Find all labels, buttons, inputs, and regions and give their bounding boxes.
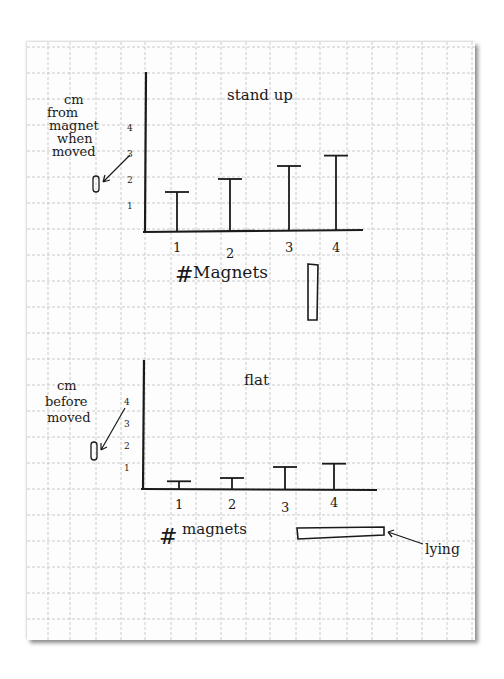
x-axis-hash: # xyxy=(175,262,193,287)
y-tick-label: 2 xyxy=(127,175,133,185)
arrow-icon xyxy=(103,155,130,182)
bar xyxy=(220,478,244,489)
bar xyxy=(273,467,297,489)
magnet-standing-icon xyxy=(308,264,318,320)
y-axis-label-line: moved xyxy=(47,410,91,425)
hand-drawn-charts: 1234 1234 stand up # Magnets cmfrommagne… xyxy=(27,42,475,640)
arrow-icon xyxy=(388,530,423,544)
x-tick-label: 3 xyxy=(285,240,293,255)
x-axis-label: magnets xyxy=(182,520,247,538)
y-axis xyxy=(143,360,144,490)
annotation-lying: lying xyxy=(425,541,460,557)
y-tick-label: 3 xyxy=(124,419,130,429)
y-tick-label: 2 xyxy=(124,441,130,451)
x-tick-label: 2 xyxy=(228,497,236,512)
x-tick-label: 1 xyxy=(173,240,181,255)
y-axis-label-line: before xyxy=(45,394,88,409)
x-axis xyxy=(143,230,363,232)
y-axis-label-line: moved xyxy=(52,144,96,159)
y-tick-label: 1 xyxy=(127,201,133,211)
chart-title: flat xyxy=(244,371,269,389)
bar xyxy=(218,179,242,231)
magnet-lying-icon xyxy=(297,527,384,539)
bar xyxy=(165,192,189,231)
x-tick-labels: 1234 xyxy=(175,495,338,515)
x-axis xyxy=(141,489,377,490)
chart-flat: 1234 1234 flat # magnets cmbeforemoved l… xyxy=(45,360,460,557)
bar xyxy=(322,464,346,489)
y-axis-label-line: cm xyxy=(57,378,77,393)
bar-series xyxy=(165,156,348,231)
bar xyxy=(277,166,301,231)
x-tick-label: 4 xyxy=(330,495,338,510)
y-tick-label: 1 xyxy=(124,463,130,473)
chart-stand-up: 1234 1234 stand up # Magnets cmfrommagne… xyxy=(47,72,363,320)
x-axis-hash: # xyxy=(159,524,177,549)
x-tick-label: 4 xyxy=(332,240,340,255)
y-tick-label: 4 xyxy=(124,397,130,407)
x-tick-label: 2 xyxy=(226,246,234,261)
y-tick-labels: 1234 xyxy=(127,123,133,211)
bar-series xyxy=(167,464,346,489)
x-axis-label: Magnets xyxy=(193,262,268,282)
x-tick-labels: 1234 xyxy=(173,240,340,261)
x-tick-label: 3 xyxy=(281,500,289,515)
y-axis xyxy=(145,72,146,232)
x-tick-label: 1 xyxy=(175,497,183,512)
bar xyxy=(324,156,348,231)
chart-title: stand up xyxy=(227,86,293,104)
y-tick-label: 4 xyxy=(127,123,133,133)
graph-paper-sheet: 1234 1234 stand up # Magnets cmfrommagne… xyxy=(27,42,475,640)
y-axis-label: cmfrommagnetwhenmoved xyxy=(47,92,99,159)
